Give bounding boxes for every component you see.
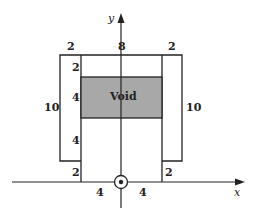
dim-inner-bottom-gap-right: 2 <box>165 166 173 179</box>
dim-bottom-left-half: 4 <box>96 186 104 199</box>
current-out-of-page-icon <box>115 176 128 189</box>
dim-void-height: 4 <box>72 91 80 104</box>
y-axis-arrow-icon <box>118 13 125 23</box>
x-axis-label: x <box>234 186 241 199</box>
y-axis-label: y <box>107 12 115 25</box>
dim-outer-right-height: 10 <box>186 101 202 114</box>
conductor-cross-section-diagram: y x Void 2 8 2 2 4 10 10 4 2 2 4 4 <box>0 0 255 218</box>
dim-top-right: 2 <box>168 40 176 53</box>
dim-inner-bottom-gap-left: 2 <box>72 166 80 179</box>
dim-top-left: 2 <box>67 40 75 53</box>
dim-top-center: 8 <box>118 40 126 53</box>
dim-outer-left-height: 10 <box>44 101 60 114</box>
dim-inner-lower-height: 4 <box>72 134 80 147</box>
dim-bottom-right-half: 4 <box>139 186 147 199</box>
void-label: Void <box>109 90 137 103</box>
dim-inner-top-gap: 2 <box>72 61 80 74</box>
x-axis-arrow-icon <box>235 179 245 186</box>
